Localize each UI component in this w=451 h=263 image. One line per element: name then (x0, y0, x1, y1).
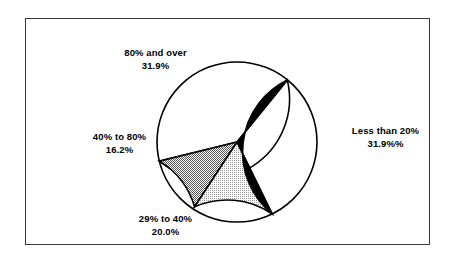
pie-label-80-and-over-value: 31.9% (103, 59, 208, 72)
pie-chart-screenshot: 80% and over 31.9% Less than 20% 31.9%% … (0, 0, 451, 263)
pie-label-less-than-20-value: 31.9%% (338, 137, 433, 150)
pie-label-40-to-80: 40% to 80% 16.2% (72, 130, 167, 156)
pie-label-29-to-40-name: 29% to 40% (113, 212, 218, 225)
pie-label-29-to-40-value: 20.0% (113, 225, 218, 238)
pie-label-40-to-80-name: 40% to 80% (72, 130, 167, 143)
pie-label-80-and-over: 80% and over 31.9% (103, 46, 208, 72)
pie-label-29-to-40: 29% to 40% 20.0% (113, 212, 218, 238)
pie-label-40-to-80-value: 16.2% (72, 143, 167, 156)
pie-label-less-than-20-name: Less than 20% (338, 124, 433, 137)
pie-label-less-than-20: Less than 20% 31.9%% (338, 124, 433, 150)
pie-label-80-and-over-name: 80% and over (103, 46, 208, 59)
